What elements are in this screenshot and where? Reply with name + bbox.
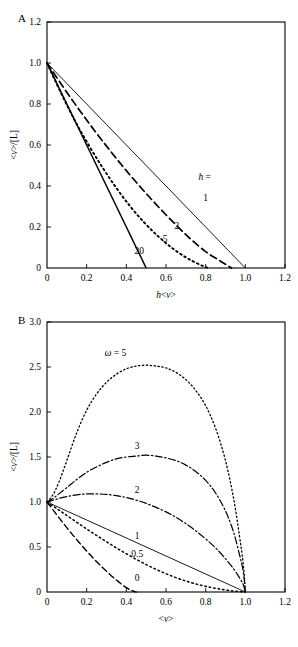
curve-2 — [47, 494, 245, 592]
y-tick-label: 0 — [36, 263, 41, 273]
x-tick-label: 0.6 — [160, 597, 172, 607]
x-tick-label: 0.4 — [120, 273, 132, 283]
chart-panel-a: A 00.20.40.60.81.01.200.20.40.60.81.01.2… — [0, 0, 298, 310]
figure-container: A 00.20.40.60.81.01.200.20.40.60.81.01.2… — [0, 0, 298, 647]
curve-label-2: 2 — [175, 221, 180, 231]
y-tick-label: 2.0 — [29, 407, 41, 417]
y-tick-label: 1.5 — [29, 452, 41, 462]
y-tick-label: 0.2 — [29, 222, 41, 232]
x-tick-label: 1.0 — [239, 273, 251, 283]
x-tick-label: 0.8 — [200, 597, 212, 607]
panel-a-letter: A — [18, 12, 26, 24]
curve-label-5: 5 — [163, 234, 168, 244]
curve-label-5: ω = 5 — [105, 348, 127, 358]
x-tick-label: 0.6 — [160, 273, 172, 283]
panel-b-svg: B 00.20.40.60.81.01.200.51.01.52.02.53.0… — [0, 300, 298, 647]
curve-20 — [47, 63, 146, 268]
y-tick-label: 0 — [36, 587, 41, 597]
y-tick-label: 0.5 — [29, 542, 41, 552]
y-tick-label: 1.2 — [29, 17, 41, 27]
curve-label-1: 1 — [135, 531, 140, 541]
y-tick-label: 0.6 — [29, 140, 41, 150]
y-axis-title: <v>/[L] — [9, 442, 19, 472]
curve-1 — [47, 502, 245, 592]
x-tick-label: 0 — [45, 597, 50, 607]
curve-label-3: 3 — [135, 441, 140, 451]
x-tick-label: 0.8 — [200, 273, 212, 283]
y-tick-label: 0.8 — [29, 99, 41, 109]
curve-label-20: 20 — [134, 246, 144, 256]
y-tick-label: 2.5 — [29, 362, 41, 372]
chart-panel-b: B 00.20.40.60.81.01.200.51.01.52.02.53.0… — [0, 300, 298, 647]
x-tick-label: 1.2 — [279, 273, 291, 283]
panel-a-svg: A 00.20.40.60.81.01.200.20.40.60.81.01.2… — [0, 0, 298, 310]
panel-b-plot-area: 00.20.40.60.81.01.200.51.01.52.02.53.0<v… — [9, 317, 291, 624]
curve-1 — [47, 63, 245, 268]
panel-b-letter: B — [18, 314, 25, 326]
y-tick-label: 3.0 — [29, 317, 41, 327]
curve-2 — [47, 63, 231, 268]
curve-label-2: 2 — [135, 485, 140, 495]
curve-5 — [47, 365, 245, 592]
y-tick-label: 0.4 — [29, 181, 41, 191]
x-tick-label: 1.0 — [239, 597, 251, 607]
x-tick-label: 0 — [45, 273, 50, 283]
legend-prefix-h: h = — [198, 172, 210, 182]
y-axis-title: <v>/[L] — [9, 130, 19, 160]
plot-frame — [47, 322, 285, 592]
x-tick-label: 0.2 — [81, 597, 93, 607]
y-tick-label: 1.0 — [29, 497, 41, 507]
x-axis-title: <v> — [159, 614, 174, 624]
x-axis-title: h<v> — [156, 290, 176, 300]
panel-a-plot-area: 00.20.40.60.81.01.200.20.40.60.81.01.2h<… — [9, 17, 291, 300]
y-tick-label: 1.0 — [29, 58, 41, 68]
x-tick-label: 0.4 — [120, 597, 132, 607]
x-tick-label: 1.2 — [279, 597, 291, 607]
curve-label-0: 0 — [135, 573, 140, 583]
curve-label-0.5: 0.5 — [131, 549, 143, 559]
curve-0 — [47, 502, 136, 592]
curve-5 — [47, 63, 209, 268]
curve-3 — [47, 455, 245, 592]
x-tick-label: 0.2 — [81, 273, 93, 283]
plot-frame — [47, 22, 285, 268]
curve-label-1: 1 — [203, 193, 208, 203]
